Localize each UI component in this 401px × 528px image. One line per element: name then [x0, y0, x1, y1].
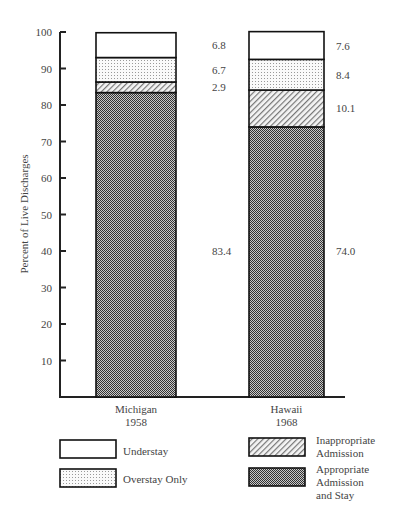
legend-swatch — [249, 468, 305, 486]
value-label: 6.8 — [212, 39, 226, 51]
legend-label: Admission — [316, 476, 364, 488]
legend-label: Overstay Only — [123, 473, 188, 485]
value-label: 2.9 — [212, 81, 226, 93]
legend-item: InappropriateAdmission — [249, 434, 375, 459]
bar-segment — [96, 58, 176, 82]
bar-segment — [249, 127, 324, 397]
legend-label: Inappropriate — [316, 434, 375, 446]
value-label: 8.4 — [336, 69, 350, 81]
value-label: 74.0 — [336, 245, 356, 257]
y-tick-label: 60 — [41, 172, 53, 184]
bar-segment — [249, 32, 324, 60]
bars: 83.42.96.76.8Michigan195874.010.18.47.6H… — [96, 32, 356, 428]
y-tick-label: 50 — [41, 209, 53, 221]
y-tick-label: 80 — [41, 99, 53, 111]
value-label: 6.7 — [212, 64, 226, 76]
category-label: Michigan — [115, 403, 158, 415]
legend-swatch — [249, 438, 305, 456]
y-tick-label: 100 — [36, 26, 53, 38]
y-tick-label: 70 — [41, 136, 53, 148]
value-label: 7.6 — [336, 40, 350, 52]
y-tick-label: 90 — [41, 63, 53, 75]
bar-segment — [96, 93, 176, 397]
bar-segment — [96, 82, 176, 93]
category-label: 1968 — [276, 416, 299, 428]
y-tick-label: 30 — [41, 282, 53, 294]
y-axis-label: Percent of Live Discharges — [18, 154, 30, 273]
legend-swatch — [60, 469, 116, 487]
bar-segment — [249, 90, 324, 127]
legend-label: Appropriate — [316, 463, 369, 475]
bar-1: 74.010.18.47.6Hawaii1968 — [249, 32, 356, 428]
bar-segment — [96, 33, 176, 58]
category-label: Hawaii — [271, 403, 303, 415]
stacked-bar-chart: 102030405060708090100Percent of Live Dis… — [0, 0, 401, 528]
legend-item: AppropriateAdmissionand Stay — [249, 463, 369, 501]
legend-label: and Stay — [316, 489, 355, 501]
legend-item: Understay — [60, 440, 169, 458]
y-tick-label: 10 — [41, 355, 53, 367]
legend-label: Understay — [123, 445, 169, 457]
y-tick-label: 20 — [41, 318, 53, 330]
bar-segment — [249, 59, 324, 90]
category-label: 1958 — [125, 416, 148, 428]
bar-0: 83.42.96.76.8Michigan1958 — [96, 33, 232, 428]
legend-swatch — [60, 440, 116, 458]
legend-item: Overstay Only — [60, 469, 188, 487]
value-label: 83.4 — [212, 245, 232, 257]
legend: UnderstayOverstay OnlyInappropriateAdmis… — [60, 434, 375, 501]
legend-label: Admission — [316, 447, 364, 459]
y-tick-label: 40 — [41, 245, 53, 257]
value-label: 10.1 — [336, 102, 355, 114]
